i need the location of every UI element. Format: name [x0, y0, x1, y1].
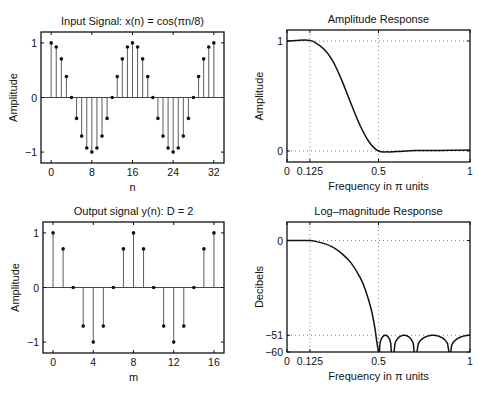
stem-marker: [202, 57, 206, 61]
x-tick-label: 0.125: [297, 355, 323, 367]
chart-title: Input Signal: x(n) = cos(πn/8): [61, 15, 204, 27]
stem-marker: [115, 75, 119, 79]
stem-marker: [202, 247, 206, 251]
subplot-input: 08162432−101Input Signal: x(n) = cos(πn/…: [7, 15, 224, 193]
stem-marker: [90, 150, 94, 154]
stem-marker: [187, 117, 191, 121]
y-tick-label: 0: [277, 145, 283, 157]
x-tick-label: 0.5: [371, 355, 386, 367]
y-tick-label: 0: [277, 235, 283, 247]
y-tick-label: −51: [265, 329, 283, 341]
stem-marker: [61, 247, 65, 251]
x-tick-label: 8: [89, 166, 95, 178]
stem-marker: [192, 286, 196, 290]
y-tick-label: 1: [277, 35, 283, 47]
stem-marker: [197, 75, 201, 79]
x-tick-label: 1: [467, 165, 473, 177]
x-tick-label: 0: [284, 355, 290, 367]
x-tick-label: 0: [48, 166, 54, 178]
stem-marker: [156, 117, 160, 121]
subplot-output: 0481216−101Output signal y(n): D = 2mAmp…: [9, 205, 224, 383]
y-tick-label: 1: [33, 227, 39, 239]
x-tick-label: 0.5: [371, 165, 386, 177]
stem-marker: [122, 247, 126, 251]
y-tick-label: −60: [265, 346, 283, 358]
stem-marker: [182, 324, 186, 328]
subplot-logmag: 00.1250.51−60−510Log–magnitude ResponseF…: [253, 205, 473, 382]
stem-marker: [60, 57, 64, 61]
stem-marker: [136, 45, 140, 49]
stem-marker: [121, 57, 125, 61]
stem-marker: [166, 146, 170, 150]
response-curve: [287, 40, 470, 152]
stem-marker: [80, 134, 84, 138]
stopband-lobe: [451, 335, 470, 352]
x-tick-label: 1: [467, 355, 473, 367]
subplot-amplitude: 00.1250.5101Amplitude ResponseFrequency …: [253, 13, 473, 192]
stem-marker: [212, 41, 216, 45]
stem-marker: [110, 96, 114, 100]
y-axis-label: Amplitude: [7, 73, 19, 122]
stem-marker: [151, 96, 155, 100]
stem-marker: [162, 324, 166, 328]
stem-marker: [176, 146, 180, 150]
x-tick-label: 16: [208, 356, 220, 368]
stem-marker: [70, 96, 74, 100]
stem-marker: [146, 75, 150, 79]
chart-title: Log–magnitude Response: [314, 205, 442, 217]
x-tick-label: 0: [50, 356, 56, 368]
y-tick-label: −1: [27, 336, 39, 348]
stem-marker: [126, 45, 130, 49]
y-tick-label: 1: [31, 37, 37, 49]
stem-marker: [49, 41, 53, 45]
chart-title: Amplitude Response: [328, 13, 430, 25]
stem-marker: [132, 231, 136, 235]
x-tick-label: 24: [167, 166, 179, 178]
plot-canvas: 08162432−101Input Signal: x(n) = cos(πn/…: [0, 0, 478, 394]
x-axis-label: n: [129, 181, 135, 193]
stem-marker: [81, 324, 85, 328]
stem-marker: [161, 134, 165, 138]
stem-marker: [51, 231, 55, 235]
x-tick-label: 32: [208, 166, 220, 178]
stem-marker: [85, 146, 89, 150]
stem-marker: [71, 286, 75, 290]
stem-marker: [75, 117, 79, 121]
chart-title: Output signal y(n): D = 2: [74, 205, 194, 217]
x-tick-label: 16: [127, 166, 139, 178]
stem-marker: [102, 324, 106, 328]
y-tick-label: 0: [33, 282, 39, 294]
y-axis-label: Amplitude: [253, 72, 265, 121]
stem-marker: [95, 146, 99, 150]
x-axis-label: Frequency in π units: [328, 370, 429, 382]
stem-marker: [207, 45, 211, 49]
stem-marker: [91, 340, 95, 344]
stem-marker: [171, 150, 175, 154]
stem-marker: [172, 340, 176, 344]
figure: 08162432−101Input Signal: x(n) = cos(πn/…: [0, 0, 478, 394]
stem-marker: [142, 247, 146, 251]
stem-marker: [65, 75, 69, 79]
y-axis-label: Decibels: [253, 265, 265, 308]
stopband-lobe: [394, 335, 414, 352]
x-tick-label: 8: [131, 356, 137, 368]
y-tick-label: −1: [25, 146, 37, 158]
stopband-lobe: [417, 335, 449, 352]
stopband-lobe: [379, 335, 391, 352]
x-tick-label: 12: [168, 356, 180, 368]
x-axis-label: Frequency in π units: [328, 180, 429, 192]
stem-marker: [112, 286, 116, 290]
x-tick-label: 0: [284, 165, 290, 177]
y-tick-label: 0: [31, 92, 37, 104]
stem-marker: [152, 286, 156, 290]
x-tick-label: 0.125: [297, 165, 323, 177]
stem-marker: [182, 134, 186, 138]
stem-marker: [105, 117, 109, 121]
stem-marker: [131, 41, 135, 45]
stem-marker: [212, 231, 216, 235]
stem-marker: [192, 96, 196, 100]
x-tick-label: 4: [90, 356, 96, 368]
stem-marker: [141, 57, 145, 61]
response-curve: [287, 241, 379, 352]
stem-marker: [100, 134, 104, 138]
